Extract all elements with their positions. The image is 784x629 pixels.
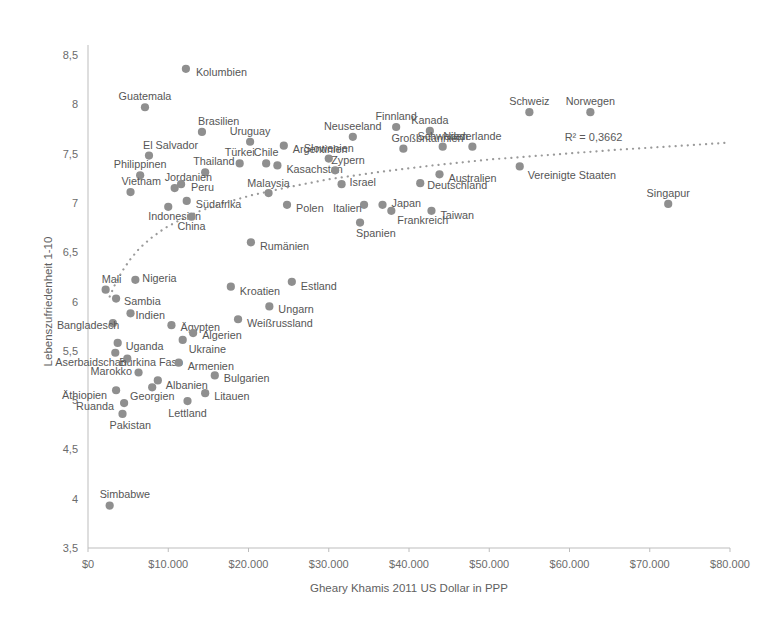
data-point-label: Taiwan xyxy=(440,209,474,221)
data-point[interactable] xyxy=(126,309,134,317)
data-point[interactable] xyxy=(516,162,524,170)
data-point[interactable] xyxy=(416,179,424,187)
y-tick-label: 8,5 xyxy=(63,49,78,61)
data-point[interactable] xyxy=(177,180,185,188)
data-point[interactable] xyxy=(283,201,291,209)
data-point[interactable] xyxy=(387,207,395,215)
data-point-label: Sambia xyxy=(124,295,161,307)
y-tick-label: 8 xyxy=(72,98,78,110)
data-point-label: Pakistan xyxy=(110,419,151,431)
data-point-label: Georgien xyxy=(130,390,174,402)
data-point[interactable] xyxy=(439,143,447,151)
data-point[interactable] xyxy=(183,197,191,205)
y-tick-label: 5,5 xyxy=(63,345,78,357)
data-point[interactable] xyxy=(337,180,345,188)
data-point[interactable] xyxy=(141,103,149,111)
data-point[interactable] xyxy=(273,161,281,169)
x-tick-label: $40.000 xyxy=(389,558,429,570)
data-point[interactable] xyxy=(349,133,357,141)
data-point-label: Schweiz xyxy=(509,95,549,107)
plot-canvas: KolumbienGuatemalaBrasilienEl SalvadorUr… xyxy=(0,0,784,629)
data-point[interactable] xyxy=(280,142,288,150)
data-point-label: Spanien xyxy=(356,227,396,239)
data-point-label: Slowenien xyxy=(304,142,354,154)
data-point[interactable] xyxy=(211,371,219,379)
data-point[interactable] xyxy=(106,502,114,510)
data-point-label: Polen xyxy=(296,202,324,214)
data-point[interactable] xyxy=(112,294,120,302)
data-point[interactable] xyxy=(154,376,162,384)
data-point[interactable] xyxy=(664,200,672,208)
data-point-label: Singapur xyxy=(647,187,691,199)
r-squared-annotation: R² = 0,3662 xyxy=(565,131,623,143)
data-point[interactable] xyxy=(525,108,533,116)
data-point-label: Vereinigte Staaten xyxy=(528,169,616,181)
data-point-label: Estland xyxy=(301,280,337,292)
data-point-label: Ukraine xyxy=(189,343,226,355)
data-point[interactable] xyxy=(227,283,235,291)
data-point[interactable] xyxy=(126,188,134,196)
x-tick-label: $70.000 xyxy=(630,558,670,570)
data-point[interactable] xyxy=(586,108,594,116)
data-point[interactable] xyxy=(262,159,270,167)
data-point[interactable] xyxy=(331,166,339,174)
data-point[interactable] xyxy=(265,302,273,310)
data-point[interactable] xyxy=(175,359,183,367)
data-point[interactable] xyxy=(183,397,191,405)
data-point[interactable] xyxy=(198,128,206,136)
data-point-label: Italien xyxy=(333,202,362,214)
data-point-label: Marokko xyxy=(91,365,132,377)
y-tick-label: 6,5 xyxy=(63,246,78,258)
data-point[interactable] xyxy=(427,207,435,215)
data-point[interactable] xyxy=(392,123,400,131)
data-point[interactable] xyxy=(189,329,197,337)
data-point[interactable] xyxy=(234,315,242,323)
data-point[interactable] xyxy=(201,389,209,397)
data-point-label: Vietnam xyxy=(122,175,161,187)
data-point[interactable] xyxy=(167,321,175,329)
data-point[interactable] xyxy=(118,410,126,418)
x-tick-label: $80.000 xyxy=(710,558,750,570)
data-point-label: Ungarn xyxy=(278,303,313,315)
data-point-label: Simbabwe xyxy=(100,488,150,500)
data-point[interactable] xyxy=(120,399,128,407)
data-point-label: Japan xyxy=(392,197,421,209)
data-point-label: Lettland xyxy=(168,407,206,419)
data-point-label: Zypern xyxy=(331,154,365,166)
data-point-label: Mali xyxy=(102,273,122,285)
data-point-label: Weißrussland xyxy=(247,317,313,329)
data-point[interactable] xyxy=(435,170,443,178)
data-point-label: Rumänien xyxy=(260,240,309,252)
data-point-label: Chile xyxy=(254,146,279,158)
data-point[interactable] xyxy=(236,159,244,167)
x-tick-label: $30.000 xyxy=(309,558,349,570)
data-point-label: Litauen xyxy=(214,390,249,402)
data-point[interactable] xyxy=(131,276,139,284)
x-tick-label: $60.000 xyxy=(550,558,590,570)
data-point[interactable] xyxy=(399,145,407,153)
data-point[interactable] xyxy=(112,386,120,394)
x-tick-label: $0 xyxy=(82,558,94,570)
data-point[interactable] xyxy=(378,201,386,209)
data-point-label: Kanada xyxy=(411,114,448,126)
data-point[interactable] xyxy=(114,339,122,347)
data-point[interactable] xyxy=(247,238,255,246)
data-point[interactable] xyxy=(179,336,187,344)
data-point-label: Uruguay xyxy=(230,125,271,137)
data-point[interactable] xyxy=(102,286,110,294)
data-point[interactable] xyxy=(134,368,142,376)
data-point[interactable] xyxy=(246,138,254,146)
x-tick-label: $20.000 xyxy=(229,558,269,570)
data-point-label: Uganda xyxy=(126,340,164,352)
x-tick-label: $50.000 xyxy=(469,558,509,570)
data-point-label: Armenien xyxy=(188,360,234,372)
data-point[interactable] xyxy=(356,219,364,227)
x-tick-label: $10.000 xyxy=(148,558,188,570)
x-axis-title: Gheary Khamis 2011 US Dollar in PPP xyxy=(310,582,508,594)
data-point-label: Ruanda xyxy=(76,400,114,412)
data-point[interactable] xyxy=(468,143,476,151)
data-point[interactable] xyxy=(182,65,190,73)
data-point[interactable] xyxy=(264,189,272,197)
data-point[interactable] xyxy=(288,278,296,286)
data-point-label: Bulgarien xyxy=(224,372,270,384)
